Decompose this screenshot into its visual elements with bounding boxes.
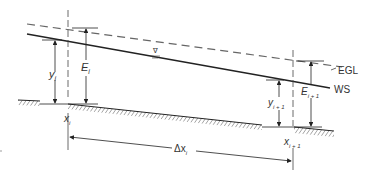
ws-label: WS [334, 84, 350, 95]
bed-hatch-left-segment [18, 100, 40, 106]
ei1-label: Ei + 1 [301, 86, 319, 99]
egl-label: EGL [338, 65, 358, 76]
water-surface-symbol: ∇ [152, 47, 158, 54]
egl-leader [331, 68, 336, 70]
energy-grade-line [27, 24, 342, 67]
stray-mark [0, 150, 1, 151]
water-surface-profile-diagram: ∇ yi Ei yi + 1 Ei + 1 EGL WS xi xi + 1 Δ… [0, 0, 371, 177]
water-surface-line [27, 34, 330, 88]
yi1-label: yi + 1 [267, 97, 285, 110]
bed-hatch-main [68, 104, 262, 130]
ei-label: Ei [81, 61, 90, 75]
xi1-label: xi + 1 [283, 136, 301, 149]
xi-label: xi [63, 113, 71, 126]
dx-dimension-right [196, 151, 291, 161]
dx-label: Δxi [174, 143, 188, 156]
dx-dimension-left [70, 137, 172, 148]
